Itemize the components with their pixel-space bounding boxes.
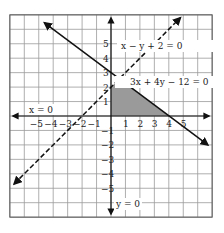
label-line-3x-plus-4y-minus-12: 3x + 4y − 12 = 0 <box>130 77 209 87</box>
label-x-equals-0: x = 0 <box>29 105 53 115</box>
y-tick-label: −4 <box>101 169 115 179</box>
coordinate-plane: −5−4−3−2−112345−5−4−3−2−112345 x − y + 2… <box>0 0 224 233</box>
label-y-equals-0: y = 0 <box>115 199 140 209</box>
x-tick-label: 1 <box>123 119 129 129</box>
x-tick-label: 4 <box>166 119 172 129</box>
x-tick-label: 3 <box>152 119 158 129</box>
y-tick-label: 5 <box>103 39 109 49</box>
y-tick-label: 3 <box>103 68 109 78</box>
x-tick-label: −2 <box>73 119 86 129</box>
x-tick-label: −1 <box>88 119 101 129</box>
x-tick-label: −3 <box>59 119 73 129</box>
label-line-x-minus-y-plus-2: x − y + 2 = 0 <box>121 41 183 51</box>
x-tick-label: 2 <box>137 119 143 129</box>
y-tick-label: 4 <box>103 54 109 64</box>
x-tick-label: −5 <box>30 119 44 129</box>
y-tick-label: −1 <box>101 126 114 136</box>
y-tick-label: −2 <box>101 140 114 150</box>
y-tick-label: −5 <box>101 184 115 194</box>
x-tick-label: −4 <box>44 119 58 129</box>
y-tick-label: 1 <box>103 97 109 107</box>
y-tick-label: −3 <box>101 155 115 165</box>
y-tick-label: 2 <box>103 83 109 93</box>
x-tick-label: 5 <box>181 119 187 129</box>
